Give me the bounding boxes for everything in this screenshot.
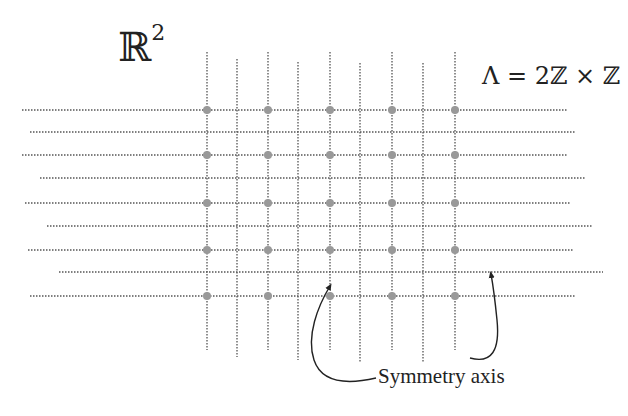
real-numbers-symbol: ℝ xyxy=(118,24,151,70)
space-exponent: 2 xyxy=(151,20,165,45)
lattice-point xyxy=(203,199,211,207)
lattice-point xyxy=(264,199,272,207)
lattice-point xyxy=(326,292,334,300)
vertical-grid-lines xyxy=(207,52,455,362)
lattice-point xyxy=(326,199,334,207)
lattice-point xyxy=(264,106,272,114)
symmetry-axis-label: Symmetry axis xyxy=(378,364,505,389)
lattice-point xyxy=(326,151,334,159)
lattice-point xyxy=(203,292,211,300)
lattice-point xyxy=(451,292,459,300)
lattice-point xyxy=(326,246,334,254)
lattice-point xyxy=(451,106,459,114)
lattice-point xyxy=(451,246,459,254)
lattice-point xyxy=(326,106,334,114)
right-arrow xyxy=(470,274,498,359)
lattice-label: Λ = 2ℤ × ℤ xyxy=(482,62,620,90)
lattice-point xyxy=(388,292,396,300)
lattice-point xyxy=(203,151,211,159)
lattice-point xyxy=(388,106,396,114)
lattice-point xyxy=(264,151,272,159)
lattice-point xyxy=(388,151,396,159)
lattice-point xyxy=(264,292,272,300)
lattice-point xyxy=(451,199,459,207)
lattice-point xyxy=(388,199,396,207)
left-arrow xyxy=(311,286,376,381)
lattice-point xyxy=(388,246,396,254)
space-label: ℝ2 xyxy=(118,24,165,70)
horizontal-grid-lines xyxy=(22,110,603,296)
lattice-point xyxy=(264,246,272,254)
lattice-point xyxy=(451,151,459,159)
lattice-point xyxy=(203,106,211,114)
lattice-point xyxy=(203,246,211,254)
